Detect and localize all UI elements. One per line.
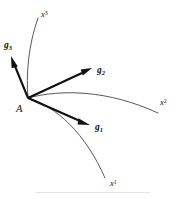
coordinate-curve-x1 — [28, 98, 105, 178]
basis-vector-g1-arrowhead — [78, 118, 90, 125]
curve-label-x1: x1 — [110, 179, 117, 188]
curve-label-x1-index: 1 — [114, 179, 117, 185]
coordinate-curve-x2 — [28, 93, 158, 113]
diagram-canvas — [0, 0, 176, 199]
curve-label-x3-index: 3 — [45, 10, 48, 16]
basis-vector-g3-arrowhead — [11, 56, 18, 68]
vector-label-g2-index: 2 — [102, 69, 105, 76]
basis-vector-g3-shaft — [15, 65, 29, 98]
vector-label-g1-index: 1 — [100, 126, 103, 133]
basis-vector-g2-shaft — [28, 73, 82, 98]
coordinate-curve-x3 — [27, 18, 38, 98]
curvilinear-coordinate-diagram: x3 x2 x1 g3 g2 g1 A — [0, 0, 176, 199]
curve-label-x3: x3 — [41, 10, 48, 19]
basis-vector-g3 — [11, 56, 28, 98]
basis-vector-g2-arrowhead — [81, 68, 92, 75]
basis-vector-g1-shaft — [28, 98, 80, 121]
vector-label-g2: g2 — [97, 66, 105, 76]
vector-label-g3: g3 — [4, 41, 12, 51]
vector-label-g1: g1 — [95, 123, 103, 133]
curve-label-x2: x2 — [160, 98, 167, 107]
basis-vector-g1 — [28, 98, 90, 125]
vector-label-g3-index: 3 — [9, 44, 12, 51]
curve-label-x2-index: 2 — [164, 98, 167, 104]
point-label-A: A — [16, 104, 22, 115]
